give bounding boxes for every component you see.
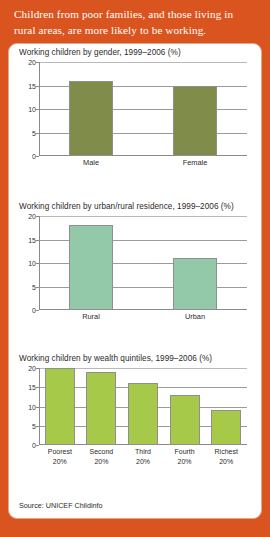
x-axis-category-label: Fourth20% [174, 447, 194, 466]
x-axis-category-label: Third20% [135, 447, 151, 466]
x-axis-category-label: Female [183, 158, 208, 168]
infographic-panel: Children from poor families, and those l… [0, 0, 270, 537]
plot-area: 05101520 [39, 216, 247, 310]
y-axis-tick-label: 15 [28, 384, 36, 391]
y-axis-tick-label: 20 [28, 213, 36, 220]
gridline [39, 216, 247, 217]
plot-area: 05101520 [39, 368, 247, 445]
x-axis-category-label: Poorest20% [48, 447, 72, 466]
charts-card: Working children by gender, 1999–2006 (%… [8, 43, 262, 519]
x-axis-category-label: Rural [82, 312, 100, 322]
x-axis-category-label: Second20% [90, 447, 114, 466]
chart-title-residence: Working children by urban/rural residenc… [19, 202, 253, 211]
header-banner: Children from poor families, and those l… [0, 0, 270, 45]
bar [69, 81, 113, 156]
y-axis-tick-label: 20 [28, 365, 36, 372]
x-axis-category-label: Male [83, 158, 99, 168]
y-axis-tick-mark [36, 445, 39, 446]
bar [69, 225, 113, 310]
y-axis-line [39, 368, 40, 445]
chart-block-wealth: Working children by wealth quintiles, 19… [9, 354, 261, 471]
y-axis-tick-label: 10 [28, 260, 36, 267]
plot-area: 05101520 [39, 62, 247, 156]
bar [173, 258, 217, 310]
bar [173, 86, 217, 157]
bar [86, 372, 116, 445]
chart-title-wealth: Working children by wealth quintiles, 19… [19, 354, 253, 363]
y-axis-tick-label: 10 [28, 403, 36, 410]
y-axis-tick-label: 15 [28, 82, 36, 89]
gridline [39, 62, 247, 63]
y-axis-tick-mark [36, 156, 39, 157]
bar-chart-wealth: 05101520Poorest20%Second20%Third20%Fourt… [17, 368, 253, 471]
header-title: Children from poor families, and those l… [14, 7, 256, 38]
chart-block-residence: Working children by urban/rural residenc… [9, 202, 261, 324]
y-axis-tick-label: 15 [28, 236, 36, 243]
y-axis-tick-mark [36, 310, 39, 311]
source-note: Source: UNICEF Childinfo [19, 501, 103, 510]
chart-block-gender: Working children by gender, 1999–2006 (%… [9, 48, 261, 170]
y-axis-tick-label: 20 [28, 59, 36, 66]
y-axis-line [39, 62, 40, 156]
bar-chart-residence: 05101520RuralUrban [17, 216, 253, 324]
x-axis-category-label: Richest20% [215, 447, 238, 466]
y-axis-line [39, 216, 40, 310]
bar [211, 410, 241, 445]
bar-chart-gender: 05101520MaleFemale [17, 62, 253, 170]
bar [45, 368, 75, 445]
bar [170, 395, 200, 445]
bar [128, 383, 158, 445]
x-axis-category-label: Urban [185, 312, 205, 322]
chart-title-gender: Working children by gender, 1999–2006 (%… [19, 48, 253, 57]
y-axis-tick-label: 10 [28, 106, 36, 113]
